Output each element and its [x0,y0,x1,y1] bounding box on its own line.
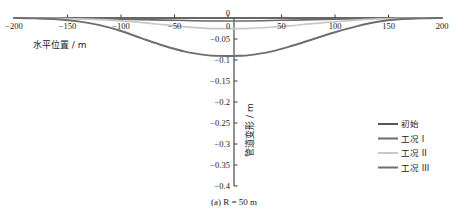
y-tick-label: −0.4 [215,181,231,191]
x-tick-labels: −200−150−100−50050100150200 [5,21,448,31]
x-tick-label: 200 [436,21,449,31]
y-tick-label: 0 [226,8,230,18]
y-tick-label: −0.1 [215,55,230,65]
legend-label: 工况 I [401,134,424,144]
y-axis-label: 管道变形 / m [244,103,255,157]
x-tick-label: 100 [329,21,342,31]
x-axis-label: 水平位置 / m [33,39,87,50]
x-tick-label: −150 [59,21,77,31]
x-tick-label: 0 [226,21,230,31]
y-axis [234,18,238,186]
legend-label: 工况 III [401,163,429,173]
legend: 初始工况 I工况 II工况 III [378,119,429,173]
y-tick-label: −0.3 [215,139,230,149]
legend-label: 工况 II [401,148,427,158]
y-tick-label: −0.15 [210,76,230,86]
x-tick-label: −50 [168,21,181,31]
legend-label: 初始 [401,119,419,129]
y-tick-label: −0.25 [210,118,230,128]
figure-caption: (a) R = 50 m [211,197,257,207]
y-tick-labels: 0−0.05−0.1−0.15−0.2−0.25−0.3−0.35−0.4 [210,8,230,191]
x-tick-label: 50 [277,21,286,31]
figure-panel: −200−150−100−50050100150200 0−0.05−0.1−0… [0,0,469,218]
x-tick-label: −200 [5,21,23,31]
deformation-line-chart: −200−150−100−50050100150200 0−0.05−0.1−0… [0,0,469,218]
y-tick-label: −0.05 [210,34,230,44]
x-tick-label: −100 [112,21,130,31]
y-tick-label: −0.35 [210,160,230,170]
svg-text:管道变形 / m: 管道变形 / m [244,103,255,157]
y-tick-label: −0.2 [215,97,230,107]
x-tick-label: 150 [382,21,395,31]
